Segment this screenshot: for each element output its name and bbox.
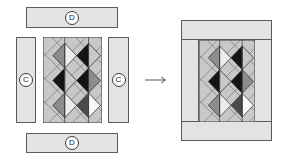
top-border-strip-d: D — [26, 7, 118, 28]
arrow-right-icon — [145, 76, 167, 84]
right-side-strip-c: C — [108, 37, 129, 123]
label-c-right: C — [112, 73, 126, 87]
label-d-top: D — [65, 11, 79, 25]
label-d-bottom: D — [65, 136, 79, 150]
assembled-right-side — [254, 40, 271, 122]
center-quilt-block — [43, 37, 102, 123]
bottom-border-strip-d: D — [26, 133, 118, 153]
left-side-strip-c: C — [16, 37, 36, 123]
assembled-quilt — [181, 20, 272, 141]
diamond-pattern — [199, 40, 255, 122]
assembled-left-side — [182, 40, 199, 122]
assembled-center-block — [199, 40, 255, 122]
assembled-bottom-border — [182, 121, 271, 140]
assembled-top-border — [182, 21, 271, 40]
label-c-left: C — [19, 73, 33, 87]
diamond-pattern — [43, 37, 102, 123]
